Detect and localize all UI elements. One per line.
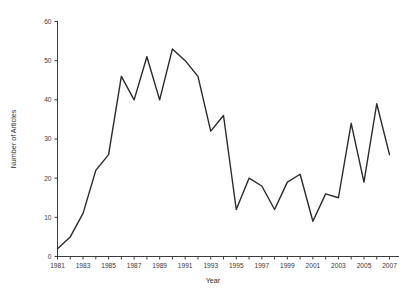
x-tick-label: 1985	[101, 262, 116, 269]
y-tick-labels: 0102030405060	[44, 18, 52, 260]
x-tick-label: 1997	[254, 262, 269, 269]
y-tick-label: 50	[44, 57, 52, 64]
x-tick-label: 1989	[152, 262, 167, 269]
x-tick-label: 2001	[306, 262, 321, 269]
y-tick-label: 30	[44, 135, 52, 142]
x-tick-label: 1995	[229, 262, 244, 269]
y-tick-label: 40	[44, 96, 52, 103]
x-tick-label: 1993	[203, 262, 218, 269]
x-tick-label: 1983	[76, 262, 91, 269]
x-tick-label: 1999	[280, 262, 295, 269]
x-axis-title: Year	[206, 276, 221, 285]
line-chart: 0102030405060 19811983198519871989199119…	[0, 0, 420, 292]
y-tick-label: 10	[44, 214, 52, 221]
data-series-line	[58, 49, 390, 249]
x-tick-label: 1987	[127, 262, 142, 269]
y-tick-label: 20	[44, 175, 52, 182]
x-tick-label: 2005	[357, 262, 372, 269]
chart-canvas: 0102030405060 19811983198519871989199119…	[0, 0, 420, 292]
y-axis-title: Number of Articles	[9, 109, 18, 168]
x-tick-label: 2007	[382, 262, 397, 269]
y-tick-label: 0	[48, 253, 52, 260]
y-tick-label: 60	[44, 18, 52, 25]
x-tick-labels: 1981198319851987198919911993199519971999…	[50, 262, 397, 269]
x-tick-label: 1981	[50, 262, 65, 269]
x-tick-label: 1991	[178, 262, 193, 269]
x-tick-label: 2003	[331, 262, 346, 269]
